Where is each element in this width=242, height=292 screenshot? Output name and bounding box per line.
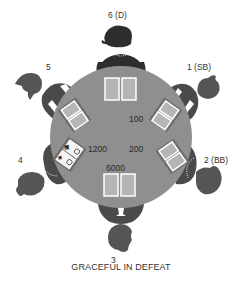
seat-label-1: 1 (SB) xyxy=(187,62,211,72)
player-head xyxy=(16,172,45,196)
player-head xyxy=(15,73,42,100)
seat-label-5: 5 xyxy=(46,62,51,72)
player-head xyxy=(197,75,219,99)
seat-label-6: 6 (D) xyxy=(108,10,127,20)
card-back xyxy=(104,174,118,196)
card-back xyxy=(122,78,136,100)
card-back xyxy=(121,174,135,196)
card-back xyxy=(105,78,119,100)
bet-amount-seat-4: 1200 xyxy=(88,144,107,154)
bet-amount-seat-3: 6000 xyxy=(106,163,125,173)
bet-amount-seat-1: 100 xyxy=(129,114,143,124)
seat-label-4: 4 xyxy=(18,155,23,165)
bet-amount-seat-2: 200 xyxy=(129,144,143,154)
figure-caption: GRACEFUL IN DEFEAT xyxy=(0,262,242,272)
player-head xyxy=(108,224,132,252)
player-head xyxy=(104,26,132,48)
player-head xyxy=(196,166,222,194)
seat-label-2: 2 (BB) xyxy=(204,155,228,165)
poker-table-diagram: ♣ ♠ 6 (D) 5 1 (SB) 4 2 (BB) 3 100 200 60… xyxy=(0,0,242,292)
